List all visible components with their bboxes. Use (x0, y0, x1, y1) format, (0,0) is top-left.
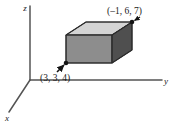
box-front-face (66, 35, 112, 63)
z-axis-label: z (22, 3, 27, 13)
near-corner-point-label: (3, 3, 4) (40, 73, 70, 84)
x-axis (9, 80, 30, 112)
leader-line-far-corner (135, 17, 141, 21)
leader-line-near-corner (57, 65, 64, 72)
coordinate-diagram: z y x (–1, 6, 7) (3, 3, 4) (0, 0, 174, 126)
figure-container: z y x (–1, 6, 7) (3, 3, 4) (0, 0, 174, 126)
vertex-dot-near (64, 61, 69, 66)
x-axis-label: x (4, 113, 9, 123)
box-group (64, 20, 135, 66)
y-axis-label: y (163, 76, 168, 86)
vertex-dot-far (130, 20, 135, 25)
far-corner-point-label: (–1, 6, 7) (107, 6, 142, 17)
